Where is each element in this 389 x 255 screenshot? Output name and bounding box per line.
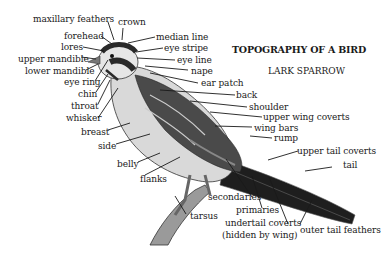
label-median-line: median line bbox=[156, 32, 208, 42]
label-eye-ring: eye ring bbox=[64, 77, 101, 87]
label-forehead: forehead bbox=[64, 31, 104, 41]
label-eye-stripe: eye stripe bbox=[164, 43, 208, 53]
label-shoulder: shoulder bbox=[249, 102, 288, 112]
label-hidden-by-wing: (hidden by wing) bbox=[222, 230, 297, 240]
label-upper-mandible: upper mandible bbox=[18, 54, 89, 64]
bird-topography-diagram: maxillary feathers crown forehead median… bbox=[0, 0, 389, 255]
label-secondaries: secondaries bbox=[208, 192, 261, 202]
label-whisker: whisker bbox=[66, 113, 101, 123]
diagram-title: TOPOGRAPHY OF A BIRD bbox=[232, 44, 366, 55]
label-side: side bbox=[98, 141, 116, 151]
diagram-subtitle: LARK SPARROW bbox=[268, 66, 345, 76]
label-tarsus: tarsus bbox=[190, 211, 218, 221]
label-primaries: primaries bbox=[236, 205, 279, 215]
label-upper-tail-coverts: upper tail coverts bbox=[297, 146, 376, 156]
label-flanks: flanks bbox=[140, 174, 167, 184]
label-crown: crown bbox=[118, 17, 146, 27]
label-lower-mandible: lower mandible bbox=[25, 66, 94, 76]
label-back: back bbox=[236, 90, 257, 100]
label-breast: breast bbox=[81, 127, 109, 137]
label-outer-tail-feathers: outer tail feathers bbox=[300, 225, 381, 235]
label-throat: throat bbox=[71, 101, 99, 111]
label-lores: lores bbox=[61, 42, 83, 52]
label-wing-bars: wing bars bbox=[254, 123, 298, 133]
label-maxillary-feathers: maxillary feathers bbox=[33, 14, 114, 24]
label-ear-patch: ear patch bbox=[201, 78, 244, 88]
label-eye-line: eye line bbox=[177, 55, 212, 65]
label-nape: nape bbox=[191, 66, 213, 76]
label-rump: rump bbox=[274, 133, 298, 143]
label-undertail-coverts: undertail coverts bbox=[225, 218, 301, 228]
label-tail: tail bbox=[343, 160, 357, 170]
label-upper-wing-coverts: upper wing coverts bbox=[263, 112, 349, 122]
label-belly: belly bbox=[117, 159, 138, 169]
label-chin: chin bbox=[78, 89, 97, 99]
